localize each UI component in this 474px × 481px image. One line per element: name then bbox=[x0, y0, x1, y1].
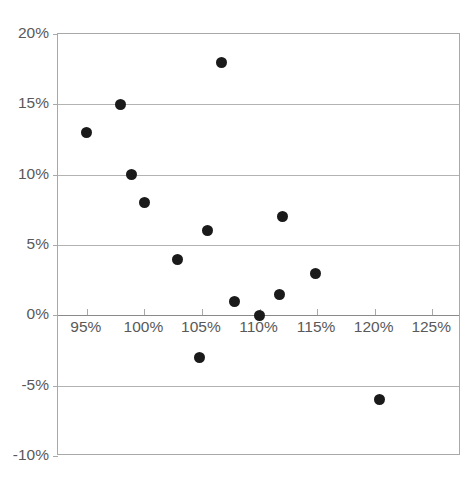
gridline-y bbox=[58, 245, 459, 246]
data-point bbox=[126, 169, 137, 180]
x-axis-tick-label: 100% bbox=[113, 319, 173, 335]
y-axis-tick-label: 15% bbox=[0, 95, 49, 111]
y-axis-tick-label: -10% bbox=[0, 447, 49, 463]
data-point bbox=[216, 57, 227, 68]
data-point bbox=[229, 296, 240, 307]
data-point bbox=[277, 211, 288, 222]
x-axis-tick bbox=[432, 309, 433, 315]
y-axis-tick bbox=[53, 315, 58, 316]
y-axis-tick-label: 5% bbox=[0, 236, 49, 252]
y-axis-tick-label: -5% bbox=[0, 377, 49, 393]
y-axis-tick bbox=[53, 34, 58, 35]
x-axis-tick bbox=[375, 309, 376, 315]
x-axis-tick-label: 115% bbox=[286, 319, 346, 335]
data-point bbox=[202, 225, 213, 236]
data-point bbox=[139, 197, 150, 208]
y-axis-tick bbox=[53, 175, 58, 176]
gridline-y bbox=[58, 386, 459, 387]
y-axis-tick bbox=[53, 456, 58, 457]
data-point bbox=[310, 268, 321, 279]
y-axis-tick bbox=[53, 245, 58, 246]
x-axis-tick-label: 120% bbox=[344, 319, 404, 335]
data-point bbox=[172, 254, 183, 265]
scatter-chart: 20%15%10%5%0%-5%-10%95%100%105%110%115%1… bbox=[0, 0, 474, 481]
y-axis-tick-label: 20% bbox=[0, 25, 49, 41]
x-axis-tick bbox=[87, 309, 88, 315]
data-point bbox=[374, 394, 385, 405]
y-axis-tick bbox=[53, 386, 58, 387]
x-axis-tick bbox=[317, 309, 318, 315]
x-axis-tick-label: 110% bbox=[229, 319, 289, 335]
x-axis-tick bbox=[144, 309, 145, 315]
x-axis-tick-label: 125% bbox=[401, 319, 461, 335]
data-point bbox=[81, 127, 92, 138]
data-point bbox=[194, 352, 205, 363]
x-axis-tick-label: 95% bbox=[56, 319, 116, 335]
y-axis-tick-label: 0% bbox=[0, 306, 49, 322]
y-axis-tick bbox=[53, 104, 58, 105]
x-axis-tick-label: 105% bbox=[171, 319, 231, 335]
y-axis-tick-label: 10% bbox=[0, 166, 49, 182]
plot-area bbox=[57, 33, 460, 455]
data-point bbox=[115, 99, 126, 110]
x-axis-tick bbox=[202, 309, 203, 315]
gridline-y bbox=[58, 175, 459, 176]
data-point bbox=[274, 289, 285, 300]
